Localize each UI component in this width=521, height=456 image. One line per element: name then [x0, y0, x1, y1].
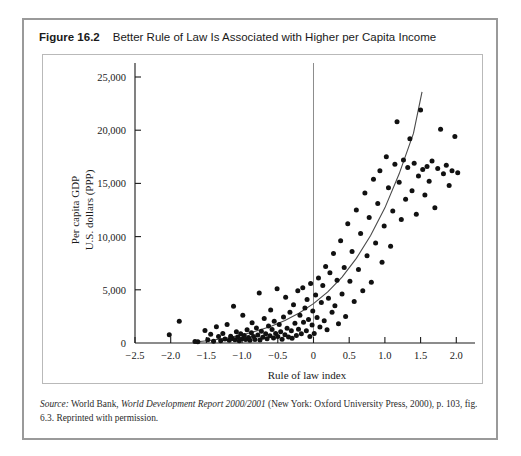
data-point — [240, 313, 245, 318]
x-tick-label: 1.0 — [378, 350, 391, 361]
data-point — [312, 331, 317, 336]
data-point — [211, 339, 216, 344]
data-point — [310, 309, 315, 314]
data-point — [290, 336, 295, 341]
data-point — [358, 231, 363, 236]
data-point — [382, 223, 387, 228]
x-tick-label: 1.5 — [414, 350, 427, 361]
y-axis-title-line-1: Per capita GDP — [69, 176, 81, 244]
data-point — [410, 188, 415, 193]
y-tick-label: 0 — [121, 338, 126, 349]
data-point — [354, 208, 359, 213]
data-point — [220, 331, 225, 336]
data-point — [397, 180, 402, 185]
data-point — [250, 320, 255, 325]
figure-title: Figure 16.2Better Rule of Law Is Associa… — [39, 31, 436, 43]
data-point — [356, 267, 361, 272]
data-point — [287, 310, 292, 315]
data-point — [280, 337, 285, 342]
data-point — [292, 321, 297, 326]
data-point — [399, 217, 404, 222]
y-tick-label: 20,000 — [97, 125, 126, 136]
data-point — [386, 185, 391, 190]
data-point — [205, 337, 210, 342]
trend-curve — [198, 92, 422, 342]
data-point — [275, 286, 280, 291]
data-point — [259, 329, 264, 334]
data-point — [268, 308, 273, 313]
data-point — [234, 329, 239, 334]
data-point — [405, 165, 410, 170]
data-point — [340, 292, 345, 297]
data-point — [322, 318, 327, 323]
data-point — [414, 212, 419, 217]
data-point — [195, 339, 200, 344]
data-point — [427, 179, 432, 184]
x-tick-label: −1.5 — [197, 350, 216, 361]
data-point — [352, 299, 357, 304]
data-point — [327, 270, 332, 275]
scatter-plot: 05,00010,00015,00020,00025,000−2.5−2.0−1… — [43, 55, 484, 385]
data-point — [371, 177, 376, 182]
data-point — [350, 249, 355, 254]
data-point — [418, 107, 423, 112]
data-point — [202, 328, 207, 333]
x-tick-label: −1.0 — [233, 350, 252, 361]
data-point — [278, 329, 283, 334]
data-point — [255, 333, 260, 338]
data-point — [320, 283, 325, 288]
data-point — [325, 327, 330, 332]
data-point — [447, 183, 452, 188]
data-point — [218, 338, 223, 343]
data-point — [335, 278, 340, 283]
data-point — [301, 320, 306, 325]
data-point — [380, 260, 385, 265]
figure-page: Figure 16.2Better Rule of Law Is Associa… — [0, 0, 521, 456]
data-point — [299, 331, 304, 336]
data-point — [422, 193, 427, 198]
data-point — [271, 336, 276, 341]
data-point — [316, 276, 321, 281]
data-point — [345, 221, 350, 226]
y-axis-title-line-2: U.S. dollars (PPP) — [83, 169, 96, 250]
x-tick-label: −2.0 — [161, 350, 180, 361]
data-point — [231, 304, 236, 309]
x-tick-label: −2.5 — [125, 350, 144, 361]
source-text-1: World Bank, — [69, 399, 121, 409]
data-point — [323, 264, 328, 269]
data-point — [281, 314, 286, 319]
y-tick-label: 10,000 — [97, 232, 126, 243]
data-point — [330, 310, 335, 315]
source-prefix: Source: — [40, 399, 69, 409]
data-point — [401, 157, 406, 162]
data-point — [313, 293, 318, 298]
source-report-title: World Development Report 2000/2001 — [121, 399, 266, 409]
data-point — [306, 317, 311, 322]
source-note: Source: World Bank, World Development Re… — [40, 398, 486, 425]
data-point — [444, 163, 449, 168]
data-point — [441, 171, 446, 176]
data-point — [367, 215, 372, 220]
data-point — [342, 265, 347, 270]
data-point — [332, 303, 337, 308]
data-point — [297, 313, 302, 318]
data-point — [262, 316, 267, 321]
data-point — [310, 322, 315, 327]
data-point — [257, 290, 262, 295]
data-point — [272, 319, 277, 324]
y-tick-label: 25,000 — [97, 72, 126, 83]
figure-caption: Better Rule of Law Is Associated with Hi… — [113, 31, 436, 43]
data-point — [177, 319, 182, 324]
data-point — [392, 162, 397, 167]
data-point — [360, 288, 365, 293]
data-point — [225, 322, 230, 327]
data-point — [275, 334, 280, 339]
data-point — [395, 119, 400, 124]
data-point — [308, 281, 313, 286]
data-point — [277, 322, 282, 327]
figure-box: Figure 16.2Better Rule of Law Is Associa… — [22, 18, 498, 440]
x-tick-label: 0 — [311, 350, 316, 361]
data-point — [450, 168, 455, 173]
data-point — [365, 253, 370, 258]
data-point — [412, 161, 417, 166]
